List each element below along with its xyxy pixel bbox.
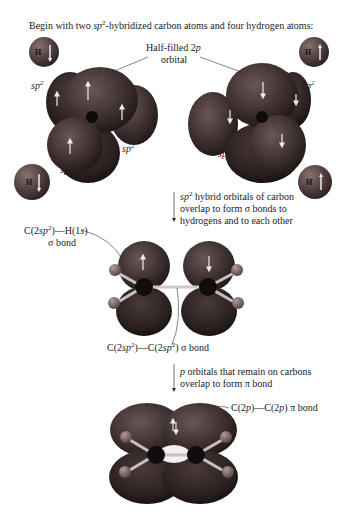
cc-sp1: sp (122, 342, 131, 353)
step2-line1: p orbitals that remain on carbons (180, 366, 311, 378)
sup-text: 2 (227, 147, 231, 155)
leader-line-right (200, 57, 244, 73)
step1-line2: overlap to form σ bonds to (180, 203, 287, 215)
diagram-title: Begin with two sp2-hybridized carbon ato… (29, 20, 313, 32)
ch-close: ) (84, 225, 87, 236)
half-filled-p: p (196, 42, 201, 53)
sp-text: sp (31, 80, 40, 91)
pi-b: )—C(2 (251, 402, 279, 413)
sp2-label-right-2: sp2 (218, 148, 230, 160)
sup-text: 2 (69, 163, 73, 171)
step2-text: orbitals that remain on carbons (185, 366, 311, 377)
hydrogen-atom-bottom-right (298, 165, 332, 199)
sp-text: sp (60, 164, 69, 175)
step1-arrow (172, 192, 176, 222)
sup-text: 2 (131, 142, 135, 150)
ethylene-pi-bond (109, 403, 238, 504)
h-label-bottom-right: H (306, 177, 312, 189)
title-text-end: -hybridized carbon atoms and four hydrog… (106, 20, 314, 31)
step1-line1: sp2 hybrid orbitals of carbon (180, 191, 294, 203)
sp-text: sp (218, 148, 227, 159)
hydrogen-atom-top-right (299, 37, 329, 67)
ch-rest: )—H(1 (51, 225, 80, 236)
cc-b: )—C(2 (134, 342, 162, 353)
step1-sp: sp (180, 191, 189, 202)
title-text: Begin with two (29, 20, 93, 31)
title-sp: sp (93, 20, 102, 31)
pi-a: C(2 (231, 402, 246, 413)
step1-line3: hydrogens and to each other (180, 215, 293, 227)
step2-line2: overlap to form π bond (180, 378, 272, 390)
ch-c: C(2 (24, 225, 39, 236)
ch-bond-label-line1: C(2sp2)—H(1s) (24, 225, 88, 237)
cc-sp2: sp (163, 342, 172, 353)
cc-c: ) σ bond (175, 342, 209, 353)
half-filled-label-line2: orbital (161, 54, 187, 66)
hydrogen-atom-top-left (29, 37, 59, 67)
ethylene-sigma-framework (108, 241, 244, 336)
sp-text: sp (302, 80, 311, 91)
cc-sigma-label: C(2sp2)—C(2sp2) σ bond (107, 342, 209, 354)
h-label-top-right: H (305, 47, 311, 59)
half-filled-text: Half-filled 2 (146, 42, 196, 53)
sp-text: sp (282, 163, 291, 174)
half-filled-label-line1: Half-filled 2p (146, 42, 201, 54)
ch-bond-label-line2: σ bond (48, 237, 76, 249)
h-label-bottom-left: H (26, 177, 32, 189)
h-label-top-left: H (35, 47, 41, 59)
sp2-label-right-1: sp2 (302, 80, 314, 92)
cc-a: C(2 (107, 342, 122, 353)
ch-bond-leader (82, 230, 124, 262)
pi-c: ) π bond (284, 402, 317, 413)
sup-text: 2 (291, 162, 295, 170)
step2-arrow (172, 364, 176, 392)
ch-sp: sp (39, 225, 48, 236)
sp2-label-left-2: sp2 (122, 143, 134, 155)
cc-sigma-leader (172, 288, 179, 345)
leader-line-left (112, 57, 148, 72)
sp2-label-left-1: sp2 (31, 80, 43, 92)
step1-text: hybrid orbitals of carbon (192, 191, 294, 202)
sup-text: 2 (311, 79, 315, 87)
pi-bond-label: C(2p)—C(2p) π bond (231, 402, 318, 414)
sp-text: sp (122, 143, 131, 154)
sup-text: 2 (40, 79, 44, 87)
sp2-label-right-3: sp2 (282, 163, 294, 175)
sp2-label-left-3: sp2 (60, 164, 72, 176)
